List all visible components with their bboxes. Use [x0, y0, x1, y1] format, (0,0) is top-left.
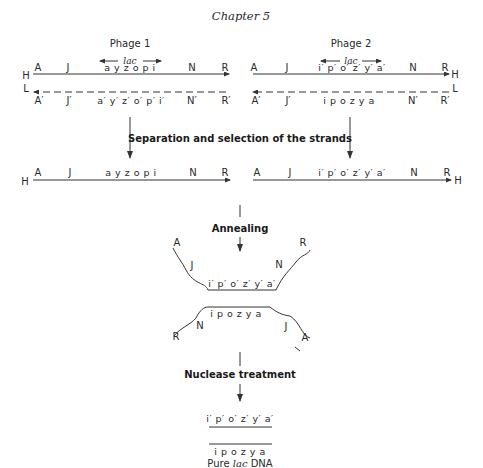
gene-N: N	[275, 259, 282, 270]
end-label-H: H	[454, 175, 462, 186]
lac-genes-prime: a′ y′ z′ o′ p′ i′	[97, 95, 164, 106]
result-top-strand-label: i′ p′ o′ z′ y′ a′	[206, 413, 273, 424]
gene-N: N	[189, 167, 196, 178]
gene-N: N	[410, 167, 417, 178]
h-strand-end-label: H	[451, 69, 459, 80]
gene-J-prime: J′	[65, 95, 72, 106]
step-annealing-label: Annealing	[212, 223, 269, 234]
annealed-bottom-strand: R N i p o z y a J A	[173, 307, 310, 351]
end-A: A	[174, 237, 181, 248]
annealed-top-strand: A J i′ p′ o′ z′ y′ a′ N R	[173, 237, 310, 290]
gene-J: J	[288, 167, 292, 178]
gene-J: J	[68, 167, 72, 178]
gene-R: R	[442, 62, 449, 73]
gene-A-prime: A′	[34, 95, 44, 106]
gene-N: N	[188, 62, 195, 73]
selected-strand-right: A J i′ p′ o′ z′ y′ a′ N R H	[253, 167, 462, 186]
gene-J: J	[284, 321, 288, 332]
scan-mark	[295, 347, 300, 351]
lac-genes: a y z o p i	[104, 62, 156, 73]
gene-N: N	[196, 320, 203, 331]
l-strand-end-label: L	[452, 83, 458, 94]
step-nuclease-label: Nuclease treatment	[184, 369, 296, 380]
pure-lac-dna-result: i′ p′ o′ z′ y′ a′ i p o z y a Pure lac D…	[206, 413, 273, 468]
gene-A: A	[254, 167, 261, 178]
gene-J: J	[190, 260, 194, 271]
l-strand-end-label: L	[23, 83, 29, 94]
phage-2-label: Phage 2	[331, 38, 372, 49]
gene-A: A	[35, 167, 42, 178]
gene-J-prime: J′	[284, 95, 291, 106]
gene-R-prime: R′	[440, 95, 450, 106]
selected-strand-left: H A J a y z o p i N R	[21, 167, 230, 187]
lac-genes: a y z o p i	[105, 167, 157, 178]
gene-A-prime: A′	[251, 95, 261, 106]
lac-genes-prime: i′ p′ o′ z′ y′ a′	[318, 167, 385, 178]
end-R: R	[300, 237, 307, 248]
end-label-H: H	[21, 176, 29, 187]
gene-N-prime: N′	[187, 95, 197, 106]
gene-N-prime: N′	[408, 95, 418, 106]
result-caption: Pure lac DNA	[207, 458, 273, 468]
gene-R: R	[222, 62, 229, 73]
lac-genes-prime: i′ p′ o′ z′ y′ a′	[318, 62, 385, 73]
gene-N: N	[409, 62, 416, 73]
phage-1-label: Phage 1	[110, 38, 151, 49]
gene-J: J	[285, 62, 289, 73]
gene-R-prime: R′	[221, 95, 231, 106]
gene-A: A	[251, 62, 258, 73]
lac-genes: i p o z y a	[323, 95, 375, 106]
gene-J: J	[66, 62, 70, 73]
end-R: R	[173, 331, 180, 342]
result-bottom-strand-label: i p o z y a	[214, 446, 266, 457]
chapter-title: Chapter 5	[212, 9, 270, 23]
h-strand-end-label: H	[22, 70, 30, 81]
step-separation-label: Separation and selection of the strands	[128, 133, 352, 144]
gene-R: R	[444, 167, 451, 178]
lac-genes: i p o z y a	[210, 308, 262, 319]
lac-dna-purification-diagram: Chapter 5 Phage 1 lac H A J a y z o p i …	[0, 0, 483, 468]
gene-R: R	[222, 167, 229, 178]
end-A: A	[302, 332, 309, 343]
gene-A: A	[35, 62, 42, 73]
phage-1-group: Phage 1 lac H A J a y z o p i N R L A′ J…	[22, 38, 231, 106]
phage-2-group: Phage 2 lac A J i′ p′ o′ z′ y′ a′ N R H …	[251, 38, 459, 106]
lac-genes-prime: i′ p′ o′ z′ y′ a′	[208, 278, 275, 289]
